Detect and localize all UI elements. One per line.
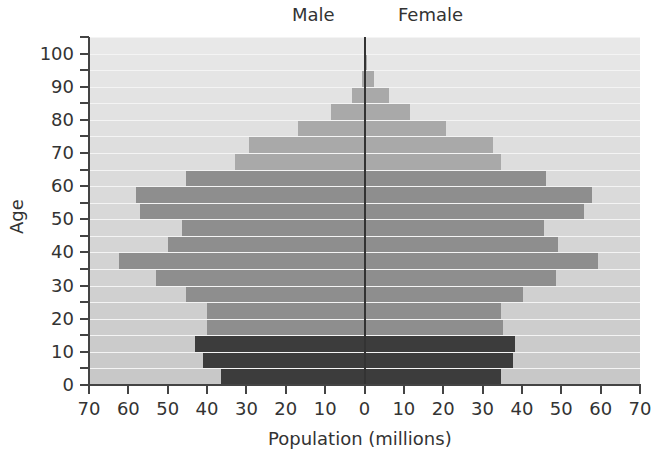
- male-bar: [156, 270, 365, 286]
- y-tick-label: 90: [51, 78, 74, 96]
- female-bar: [365, 336, 515, 352]
- y-tick: [80, 69, 89, 71]
- y-tick: [80, 152, 89, 154]
- y-tick: [80, 202, 89, 204]
- x-tick-label: 30: [226, 398, 266, 419]
- x-tick: [482, 385, 484, 394]
- female-bar: [365, 369, 501, 385]
- male-bar: [221, 369, 365, 385]
- x-tick-label: 60: [108, 398, 148, 419]
- x-tick: [167, 385, 169, 394]
- x-tick: [403, 385, 405, 394]
- y-tick: [80, 185, 89, 187]
- male-bar: [203, 353, 365, 369]
- y-tick: [80, 169, 89, 171]
- male-label: Male: [292, 4, 335, 25]
- female-bar: [365, 287, 523, 303]
- female-bar: [365, 137, 493, 153]
- y-tick-label: 20: [51, 310, 74, 328]
- y-tick-label: 0: [63, 376, 74, 394]
- x-tick: [364, 385, 366, 394]
- y-tick: [80, 102, 89, 104]
- y-axis-title: Age: [6, 199, 27, 234]
- male-bar: [136, 187, 365, 203]
- y-tick: [80, 36, 89, 38]
- y-tick-label: 100: [40, 45, 74, 63]
- x-tick-label: 10: [384, 398, 424, 419]
- x-tick-label: 70: [620, 398, 660, 419]
- center-axis-line: [364, 37, 366, 385]
- y-tick-label: 60: [51, 177, 74, 195]
- y-tick: [80, 318, 89, 320]
- female-bar: [365, 303, 501, 319]
- x-tick-label: 40: [187, 398, 227, 419]
- male-bar: [182, 220, 365, 236]
- x-tick: [639, 385, 641, 394]
- x-tick-label: 30: [463, 398, 503, 419]
- female-bar: [365, 270, 556, 286]
- male-bar: [235, 154, 365, 170]
- x-tick: [442, 385, 444, 394]
- x-tick: [560, 385, 562, 394]
- y-tick-label: 50: [51, 210, 74, 228]
- female-bar: [365, 88, 389, 104]
- y-tick: [80, 301, 89, 303]
- x-tick-label: 0: [345, 398, 385, 419]
- y-tick: [80, 351, 89, 353]
- y-tick: [80, 135, 89, 137]
- male-bar: [186, 171, 365, 187]
- male-bar: [331, 104, 365, 120]
- y-tick: [80, 268, 89, 270]
- female-bar: [365, 253, 598, 269]
- x-tick: [245, 385, 247, 394]
- male-bar: [207, 320, 365, 336]
- x-axis-title: Population (millions): [268, 428, 452, 449]
- x-tick: [521, 385, 523, 394]
- female-bar: [365, 171, 546, 187]
- female-bar: [365, 71, 374, 87]
- x-tick: [206, 385, 208, 394]
- female-bar: [365, 320, 503, 336]
- x-tick-label: 50: [541, 398, 581, 419]
- x-tick-label: 40: [502, 398, 542, 419]
- x-tick: [600, 385, 602, 394]
- male-bar: [186, 287, 365, 303]
- female-bar: [365, 237, 558, 253]
- female-bar: [365, 121, 446, 137]
- x-tick: [324, 385, 326, 394]
- y-tick: [80, 285, 89, 287]
- female-label: Female: [398, 4, 463, 25]
- female-bar: [365, 220, 544, 236]
- male-bar: [119, 253, 365, 269]
- male-bar: [195, 336, 365, 352]
- x-tick-label: 20: [266, 398, 306, 419]
- female-bar: [365, 204, 584, 220]
- male-bar: [207, 303, 365, 319]
- y-tick-label: 40: [51, 243, 74, 261]
- female-bar: [365, 353, 513, 369]
- female-bar: [365, 104, 410, 120]
- male-bar: [140, 204, 365, 220]
- y-tick-label: 30: [51, 277, 74, 295]
- female-bar: [365, 154, 501, 170]
- y-tick-label: 10: [51, 343, 74, 361]
- male-bar: [298, 121, 365, 137]
- x-tick: [285, 385, 287, 394]
- x-tick: [127, 385, 129, 394]
- y-tick: [80, 53, 89, 55]
- x-tick-label: 50: [148, 398, 188, 419]
- x-tick-label: 70: [69, 398, 109, 419]
- y-tick: [80, 86, 89, 88]
- x-tick-label: 20: [423, 398, 463, 419]
- y-tick: [80, 218, 89, 220]
- y-tick-label: 70: [51, 144, 74, 162]
- y-tick: [80, 251, 89, 253]
- y-tick: [80, 334, 89, 336]
- male-bar: [249, 137, 365, 153]
- y-tick: [80, 235, 89, 237]
- male-bar: [168, 237, 365, 253]
- y-tick: [80, 367, 89, 369]
- x-tick: [88, 385, 90, 394]
- y-tick-label: 80: [51, 111, 74, 129]
- x-tick-label: 10: [305, 398, 345, 419]
